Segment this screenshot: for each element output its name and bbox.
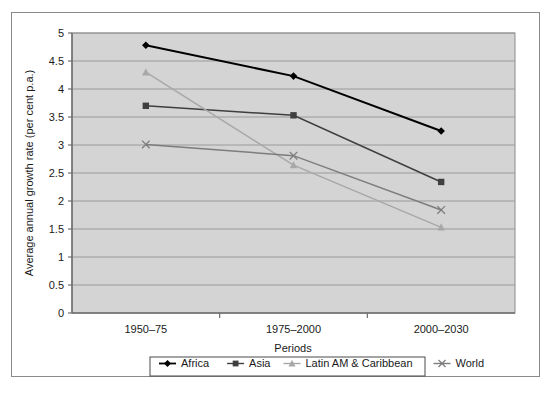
x-axis-title: Periods <box>274 342 312 354</box>
legend-items: AfricaAsiaLatin AM & CaribbeanWorld <box>159 357 484 369</box>
legend-item-label: Africa <box>181 357 210 369</box>
y-tick-label: 1.5 <box>49 223 64 235</box>
y-tick-label: 4.5 <box>49 55 64 67</box>
chart-legend: AfricaAsiaLatin AM & CaribbeanWorld <box>150 357 484 376</box>
y-axis-tick-labels: 00.511.522.533.544.55 <box>49 27 64 319</box>
y-tick-label: 3 <box>58 139 64 151</box>
y-tick-label: 5 <box>58 27 64 39</box>
y-tick-label: 2.5 <box>49 167 64 179</box>
x-tick-label: 1975–2000 <box>266 323 321 335</box>
y-tick-label: 4 <box>58 83 64 95</box>
x-tick-label: 1950–75 <box>124 323 167 335</box>
y-tick-label: 2 <box>58 195 64 207</box>
data-point <box>438 179 444 185</box>
data-point <box>143 103 149 109</box>
legend-item-label: World <box>456 357 485 369</box>
legend-item-world[interactable]: World <box>434 357 485 369</box>
data-point <box>290 112 296 118</box>
x-tick-label: 2000–2030 <box>414 323 469 335</box>
x-axis-tick-labels: 1950–751975–20002000–2030 <box>124 323 468 335</box>
legend-item-label: Latin AM & Caribbean <box>306 357 413 369</box>
y-axis-title: Average annual growth rate (per cent p.a… <box>23 70 35 276</box>
figure-container: 00.511.522.533.544.55 1950–751975–200020… <box>0 0 554 399</box>
legend-item-label: Asia <box>249 357 271 369</box>
legend-marker <box>233 361 239 367</box>
line-chart: 00.511.522.533.544.55 1950–751975–200020… <box>0 0 554 399</box>
y-tick-label: 3.5 <box>49 111 64 123</box>
y-tick-label: 0 <box>58 307 64 319</box>
y-tick-label: 0.5 <box>49 279 64 291</box>
y-tick-label: 1 <box>58 251 64 263</box>
